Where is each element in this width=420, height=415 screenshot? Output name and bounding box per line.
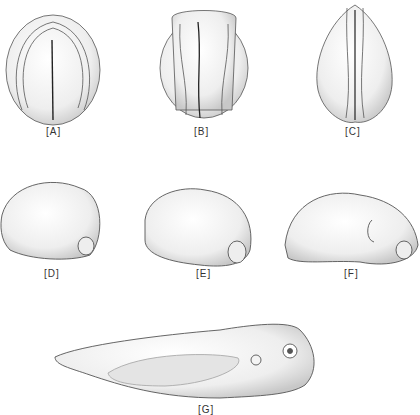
embryo-f [285, 193, 418, 264]
panel-label-d: [D] [44, 268, 60, 279]
panel-label-b: [B] [194, 126, 209, 137]
embryo-d [1, 182, 100, 259]
panel-label-a: [A] [46, 126, 61, 137]
embryo-c [317, 5, 392, 123]
panel-label-c: [C] [345, 126, 361, 137]
tadpole-g [55, 324, 314, 398]
panel-label-f: [F] [344, 268, 359, 279]
panel-label-g: [G] [198, 404, 214, 415]
embryo-a [6, 15, 100, 125]
embryo-e [145, 189, 251, 266]
embryo-b [160, 11, 248, 119]
panel-label-e: [E] [196, 268, 211, 279]
